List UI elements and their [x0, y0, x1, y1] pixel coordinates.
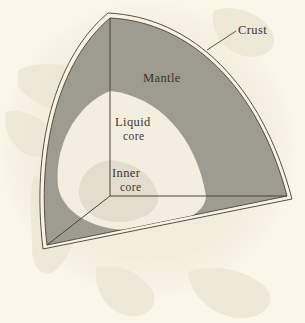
diagram-canvas — [0, 0, 305, 323]
label-liquid-core: Liquid core — [115, 116, 151, 142]
earth-interior-diagram: Crust Mantle Liquid core Inner core — [0, 0, 305, 323]
label-crust: Crust — [238, 24, 267, 38]
label-inner-core-line1: Inner — [112, 166, 140, 180]
label-mantle: Mantle — [143, 72, 181, 86]
label-liquid-core-line1: Liquid — [115, 115, 151, 129]
label-inner-core: Inner core — [112, 167, 141, 193]
label-liquid-core-line2: core — [115, 130, 151, 142]
label-inner-core-line2: core — [112, 181, 141, 193]
